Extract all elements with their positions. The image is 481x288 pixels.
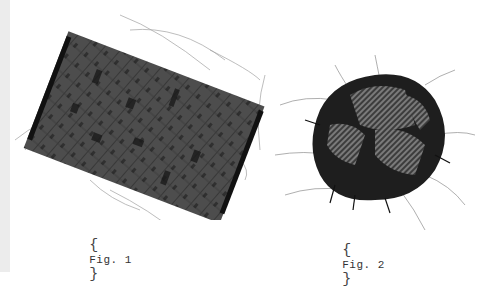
figure-2-caption: { Fig. 2 } — [328, 230, 385, 288]
page-edge-strip — [0, 0, 10, 272]
caption-open-brace: { — [342, 242, 352, 259]
figure-2-label: Fig. 2 — [342, 259, 385, 271]
caption-close-brace: } — [89, 266, 99, 283]
figure-1-fabric-swatch — [10, 10, 270, 220]
caption-close-brace: } — [342, 271, 352, 288]
figure-1-caption: { Fig. 1 } — [75, 225, 132, 283]
figure-2-fabric-ball — [275, 55, 475, 230]
caption-open-brace: { — [89, 237, 99, 254]
figure-1-label: Fig. 1 — [89, 254, 132, 266]
